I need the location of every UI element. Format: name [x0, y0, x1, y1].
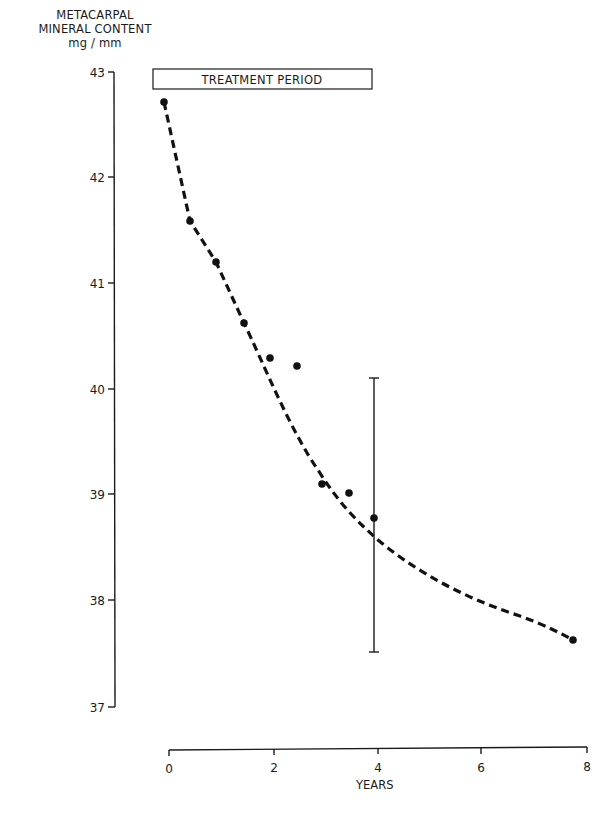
- y-tick-40: 40: [90, 383, 105, 397]
- x-tick-8: 8: [583, 760, 591, 774]
- y-tick-41: 41: [90, 277, 105, 291]
- x-tick-4: 4: [374, 761, 382, 775]
- data-point: [293, 362, 301, 370]
- data-point: [318, 480, 326, 488]
- x-tick-0: 0: [165, 762, 173, 776]
- y-tick-43: 43: [90, 66, 105, 80]
- y-tick-39: 39: [90, 488, 105, 502]
- y-axis: [108, 72, 115, 707]
- chart-plot: 43 42 41 40 39 38 37 0 2 4 6 8 TREATMENT…: [0, 0, 609, 820]
- x-axis-title: YEARS: [356, 778, 393, 792]
- y-tick-38: 38: [90, 594, 105, 608]
- data-point: [370, 514, 378, 522]
- fitted-curve: [164, 102, 573, 640]
- data-point: [345, 489, 353, 497]
- data-point: [212, 258, 220, 266]
- data-points: [160, 98, 577, 644]
- x-tick-labels: 0 2 4 6 8: [165, 760, 591, 776]
- y-tick-42: 42: [90, 171, 105, 185]
- treatment-period-label: TREATMENT PERIOD: [200, 73, 322, 87]
- y-tick-37: 37: [90, 701, 105, 715]
- data-point: [569, 636, 577, 644]
- x-tick-2: 2: [270, 761, 278, 775]
- y-tick-labels: 43 42 41 40 39 38 37: [90, 66, 105, 715]
- data-point: [266, 354, 274, 362]
- x-tick-6: 6: [477, 761, 485, 775]
- x-axis: [169, 747, 587, 756]
- data-point: [240, 319, 248, 327]
- data-point: [160, 98, 168, 106]
- data-point: [186, 217, 194, 225]
- treatment-period-annotation: TREATMENT PERIOD: [153, 69, 372, 89]
